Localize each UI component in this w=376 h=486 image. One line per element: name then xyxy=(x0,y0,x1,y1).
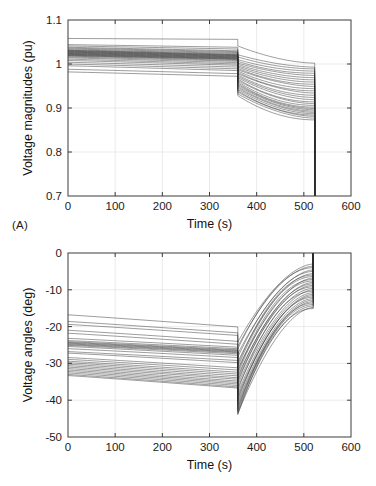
x-tick-label: 300 xyxy=(200,200,219,212)
y-axis-title: Voltage angles (deg) xyxy=(21,288,35,403)
y-tick-label: 0 xyxy=(56,247,62,259)
x-tick-label: 0 xyxy=(65,200,71,212)
y-tick-label: 0.7 xyxy=(46,190,62,202)
y-tick-label: 1.1 xyxy=(46,14,62,26)
y-tick-label: -20 xyxy=(45,321,62,333)
x-tick-label: 200 xyxy=(153,200,172,212)
x-axis-title: Time (s) xyxy=(187,217,232,231)
x-tick-label: 500 xyxy=(294,441,313,453)
x-tick-label: 100 xyxy=(106,200,125,212)
y-tick-label: 1 xyxy=(56,58,62,70)
panel-label-a: (A) xyxy=(12,219,28,231)
y-axis-title: Voltage magnitudes (pu) xyxy=(21,40,35,176)
x-tick-label: 200 xyxy=(153,441,172,453)
x-axis-title: Time (s) xyxy=(187,458,232,472)
y-tick-label: -50 xyxy=(45,431,62,443)
x-tick-label: 300 xyxy=(200,441,219,453)
x-tick-label: 600 xyxy=(341,441,360,453)
y-tick-label: -30 xyxy=(45,357,62,369)
figure-container: 01002003004005006000.70.80.911.1Time (s)… xyxy=(0,0,376,486)
y-tick-label: 0.9 xyxy=(46,102,62,114)
x-tick-label: 400 xyxy=(247,441,266,453)
y-tick-label: 0.8 xyxy=(46,146,62,158)
chart-panel-voltage-angles: 0100200300400500600-50-40-30-20-100Time … xyxy=(0,243,376,486)
voltage-magnitudes-plot: 01002003004005006000.70.80.911.1Time (s)… xyxy=(0,0,376,243)
x-tick-label: 400 xyxy=(247,200,266,212)
y-tick-label: -10 xyxy=(45,284,62,296)
x-tick-label: 0 xyxy=(65,441,71,453)
chart-panel-voltage-magnitudes: 01002003004005006000.70.80.911.1Time (s)… xyxy=(0,0,376,243)
x-tick-label: 100 xyxy=(106,441,125,453)
voltage-angles-plot: 0100200300400500600-50-40-30-20-100Time … xyxy=(0,243,376,486)
x-tick-label: 500 xyxy=(294,200,313,212)
x-tick-label: 600 xyxy=(341,200,360,212)
y-tick-label: -40 xyxy=(45,394,62,406)
